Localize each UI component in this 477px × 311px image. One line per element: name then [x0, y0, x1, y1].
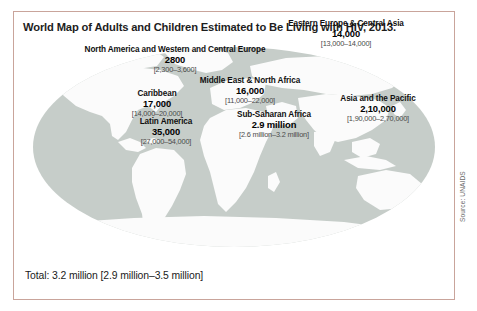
land-alaska — [32, 68, 62, 88]
callout-region-value: 2800 — [66, 55, 284, 64]
callout-region-range: [14,000–20,000] — [98, 110, 216, 117]
callout-latin-america[interactable]: Latin America 35,000 [27,000–54,000] — [104, 118, 228, 145]
land-antarctica — [30, 216, 434, 258]
land-new-zealand — [428, 202, 440, 218]
callout-region-name: Asia and the Pacific — [310, 95, 446, 103]
callout-region-name: Middle East & North Africa — [174, 77, 326, 85]
callout-region-name: Caribbean — [98, 90, 216, 98]
callout-region-value: 35,000 — [104, 127, 228, 136]
source-attribution: Source: UNAIDS — [459, 171, 466, 222]
callout-eastern-europe-central-asia[interactable]: Eastern Europe & Central Asia 14,000 [13… — [256, 20, 436, 47]
callout-caribbean[interactable]: Caribbean 17,000 [14,000–20,000] — [98, 90, 216, 117]
callout-region-range: [2,300–3,600] — [66, 66, 284, 73]
callout-region-value: 17,000 — [98, 99, 216, 108]
total-summary: Total: 3.2 million [2.9 million–3.5 mill… — [25, 270, 203, 281]
callout-region-name: Eastern Europe & Central Asia — [256, 20, 436, 28]
hiv-world-map-panel: World Map of Adults and Children Estimat… — [13, 11, 455, 300]
callout-region-name: North America and Western and Central Eu… — [66, 46, 284, 54]
callout-region-name: Latin America — [104, 118, 228, 126]
callout-north-america-western-central-europe[interactable]: North America and Western and Central Eu… — [66, 46, 284, 73]
callout-region-range: [27,000–54,000] — [104, 138, 228, 145]
callout-region-value: 14,000 — [256, 29, 436, 38]
